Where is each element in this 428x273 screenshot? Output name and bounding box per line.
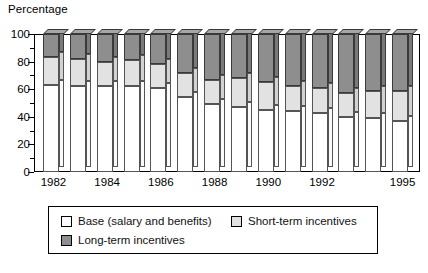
bar-side-face — [274, 77, 279, 105]
plot-area — [34, 34, 420, 172]
bar-top-face — [70, 29, 91, 34]
bar-side-face — [220, 29, 225, 75]
bar-side-face — [354, 29, 359, 88]
bar-segment-long-term — [392, 34, 408, 91]
bar-1985 — [124, 34, 140, 172]
bar-segment-long-term — [285, 34, 301, 86]
bar-1982 — [43, 34, 59, 172]
bar-segment-base — [124, 86, 140, 172]
bar-side-face — [381, 86, 386, 114]
legend-item-base: Base (salary and benefits) — [61, 215, 212, 227]
bar-segment-long-term — [258, 34, 274, 82]
bar-side-face — [166, 83, 171, 167]
legend-label-long-term: Long-term incentives — [78, 234, 185, 246]
bar-segment-long-term — [204, 34, 220, 80]
bar-side-face — [301, 29, 306, 81]
bar-top-face — [124, 29, 145, 34]
bar-segment-short-term — [312, 88, 328, 113]
bar-segment-base — [312, 113, 328, 172]
bar-segment-base — [70, 86, 86, 172]
bar-side-face — [86, 81, 91, 167]
bar-side-face — [193, 68, 198, 93]
x-axis-tick-label: 1995 — [390, 176, 416, 188]
bar-1991 — [285, 34, 301, 172]
bar-side-face — [328, 108, 333, 167]
bar-top-face — [392, 29, 413, 34]
bar-side-face — [328, 83, 333, 108]
bar-segment-short-term — [70, 59, 86, 87]
legend-label-short-term: Short-term incentives — [248, 215, 357, 227]
bar-side-face — [220, 75, 225, 100]
bar-side-face — [140, 55, 145, 81]
x-axis-tick-label: 1984 — [94, 176, 120, 188]
x-axis-tick-label: 1982 — [41, 176, 67, 188]
legend-item-long-term: Long-term incentives — [61, 234, 185, 246]
bar-side-face — [220, 99, 225, 167]
y-axis-tick-label: 40 — [2, 111, 30, 123]
bar-segment-short-term — [97, 62, 113, 87]
x-axis-labels: 1982198419861988199019921995 — [0, 172, 428, 194]
bar-segment-short-term — [338, 93, 354, 116]
bar-top-face — [177, 29, 198, 34]
bar-segment-short-term — [150, 64, 166, 87]
bar-segment-base — [392, 121, 408, 172]
bar-1995 — [392, 34, 408, 172]
bar-segment-long-term — [312, 34, 328, 88]
bar-side-face — [247, 29, 252, 73]
bar-side-face — [408, 86, 413, 116]
bar-segment-short-term — [204, 80, 220, 105]
bar-segment-short-term — [365, 91, 381, 119]
bar-top-face — [338, 29, 359, 34]
legend-item-short-term: Short-term incentives — [231, 215, 357, 227]
x-axis-tick-label: 1992 — [309, 176, 335, 188]
bar-segment-base — [97, 86, 113, 172]
bar-segment-base — [365, 118, 381, 172]
bar-side-face — [301, 81, 306, 106]
bar-side-face — [193, 29, 198, 68]
x-axis-tick-label: 1988 — [202, 176, 228, 188]
bar-segment-long-term — [231, 34, 247, 78]
bar-segment-short-term — [43, 57, 59, 85]
bar-side-face — [113, 57, 118, 82]
bar-1983 — [70, 34, 86, 172]
y-axis-labels: 020406080100 — [0, 0, 34, 273]
bar-side-face — [59, 52, 64, 80]
bar-side-face — [354, 112, 359, 167]
bar-segment-long-term — [43, 34, 59, 57]
bar-1990 — [258, 34, 274, 172]
bar-segment-base — [150, 88, 166, 172]
bar-side-face — [140, 81, 145, 167]
bar-top-face — [97, 29, 118, 34]
bar-top-face — [285, 29, 306, 34]
bar-segment-short-term — [124, 60, 140, 86]
bar-side-face — [113, 81, 118, 167]
bar-segment-short-term — [285, 86, 301, 111]
y-axis-tick-label: 60 — [2, 83, 30, 95]
stacked-bar-chart: Percentage 020406080100 1982198419861988… — [0, 0, 428, 273]
bar-segment-long-term — [70, 34, 86, 59]
bar-1993 — [338, 34, 354, 172]
y-axis-tick-label: 20 — [2, 138, 30, 150]
bar-side-face — [274, 105, 279, 167]
bar-side-face — [86, 54, 91, 82]
chart-legend: Base (salary and benefits) Short-term in… — [48, 206, 378, 254]
bar-segment-base — [43, 85, 59, 172]
bar-segment-long-term — [97, 34, 113, 62]
bar-side-face — [59, 80, 64, 167]
bar-top-face — [365, 29, 386, 34]
bar-1984 — [97, 34, 113, 172]
bar-segment-short-term — [231, 78, 247, 107]
bar-side-face — [166, 59, 171, 82]
bar-segment-base — [258, 110, 274, 172]
bar-top-face — [43, 29, 64, 34]
bar-side-face — [328, 29, 333, 83]
y-axis-tick-label: 100 — [2, 28, 30, 40]
bar-side-face — [381, 113, 386, 167]
bar-side-face — [354, 88, 359, 111]
x-axis-tick-label: 1990 — [255, 176, 281, 188]
bar-segment-long-term — [124, 34, 140, 60]
bar-top-face — [258, 29, 279, 34]
bar-1988 — [204, 34, 220, 172]
bar-1987 — [177, 34, 193, 172]
bar-segment-long-term — [150, 34, 166, 64]
